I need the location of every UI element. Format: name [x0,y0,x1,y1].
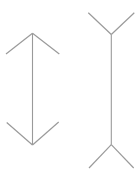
figure-svg [0,0,140,175]
canvas-background [0,0,140,175]
muller-lyer-figure-canvas [0,0,140,175]
